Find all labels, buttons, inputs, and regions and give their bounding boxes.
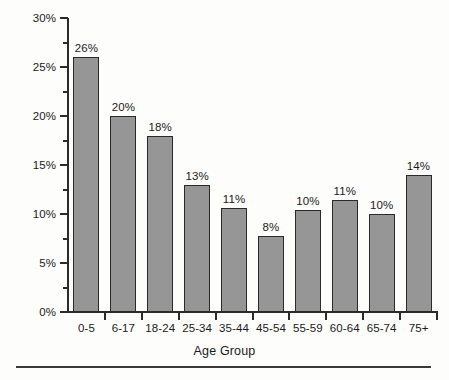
- x-axis-tick: [215, 313, 217, 320]
- x-axis-tick: [399, 313, 401, 320]
- bar-group: 11%: [326, 18, 363, 312]
- x-axis-tick: [252, 313, 254, 320]
- x-axis-tick: [104, 313, 106, 320]
- bar-group: 20%: [105, 18, 142, 312]
- y-axis-tick-label: 30%: [33, 12, 56, 24]
- bar-value-label: 11%: [334, 185, 356, 197]
- x-axis-tick: [141, 313, 143, 320]
- bar-value-label: 10%: [296, 195, 319, 207]
- bar-value-label: 26%: [75, 42, 98, 54]
- y-axis-tick-label: 10%: [33, 208, 56, 220]
- bar[interactable]: [369, 214, 395, 312]
- y-axis-tick: [60, 213, 68, 215]
- bar-value-label: 18%: [149, 121, 172, 133]
- y-axis-tick: [60, 262, 68, 264]
- bar-group: 10%: [289, 18, 326, 312]
- bar-group: 26%: [68, 18, 105, 312]
- x-axis-tick-label: 0-5: [78, 322, 95, 334]
- bar-value-label: 14%: [407, 160, 430, 172]
- x-axis-tick-label: 6-17: [112, 322, 135, 334]
- x-axis-tick-label: 25-34: [182, 322, 212, 334]
- bar-value-label: 11%: [223, 193, 245, 205]
- bar-group: 10%: [363, 18, 400, 312]
- x-axis-title: Age Group: [0, 344, 449, 358]
- x-axis-tick: [436, 313, 438, 320]
- y-axis-tick: [60, 66, 68, 68]
- bar[interactable]: [73, 57, 99, 312]
- y-axis-tick-label: 5%: [39, 257, 56, 269]
- x-axis-tick-label: 45-54: [256, 322, 286, 334]
- x-axis-tick-label: 75+: [409, 322, 429, 334]
- chart-page: Percent in Poverty 0%5%10%15%20%25%30% 2…: [0, 0, 449, 380]
- x-axis-tick: [362, 313, 364, 320]
- bar[interactable]: [295, 210, 321, 312]
- bar-group: 18%: [142, 18, 179, 312]
- bar[interactable]: [184, 185, 210, 312]
- plot-area: 26%20%18%13%11%8%10%11%10%14%: [68, 18, 437, 312]
- bar[interactable]: [406, 175, 432, 312]
- y-axis-tick: [60, 115, 68, 117]
- y-axis-tick-label: 15%: [33, 159, 56, 171]
- x-axis-tick: [325, 313, 327, 320]
- bar-group: 14%: [400, 18, 437, 312]
- x-axis-tick-label: 55-59: [293, 322, 323, 334]
- y-axis-tick: [60, 164, 68, 166]
- x-axis-tick-label: 65-74: [367, 322, 397, 334]
- y-axis-tick: [60, 311, 68, 313]
- y-axis-tick: [60, 17, 68, 19]
- x-axis-tick-label: 35-44: [219, 322, 249, 334]
- footer-divider: [16, 366, 431, 368]
- x-axis-tick-label: 18-24: [145, 322, 175, 334]
- bar[interactable]: [110, 116, 136, 312]
- y-axis-tick-label: 0%: [39, 306, 56, 318]
- bar[interactable]: [221, 208, 247, 312]
- y-axis-tick-label: 20%: [33, 110, 56, 122]
- x-axis-tick: [178, 313, 180, 320]
- y-axis-tick-label: 25%: [33, 61, 56, 73]
- bar-group: 13%: [179, 18, 216, 312]
- bar-value-label: 8%: [263, 221, 280, 233]
- bar[interactable]: [332, 200, 358, 312]
- bar-group: 11%: [216, 18, 253, 312]
- x-axis-tick-label: 60-64: [330, 322, 360, 334]
- x-axis-tick: [288, 313, 290, 320]
- bar-value-label: 10%: [370, 199, 393, 211]
- bar-group: 8%: [253, 18, 290, 312]
- bar-value-label: 20%: [112, 101, 135, 113]
- bar[interactable]: [147, 136, 173, 312]
- bar-value-label: 13%: [185, 170, 208, 182]
- bar[interactable]: [258, 236, 284, 312]
